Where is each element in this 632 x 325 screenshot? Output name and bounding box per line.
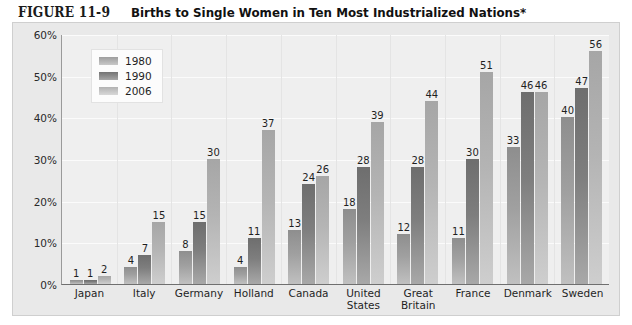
- bar-italy-2006: 15: [152, 222, 165, 285]
- bar-group: 81530: [172, 35, 227, 284]
- bar-japan-2006: 2: [98, 276, 111, 284]
- legend-label-1990: 1990: [125, 70, 152, 82]
- bar-denmark-2006: 46: [535, 92, 548, 284]
- bar-value-label: 28: [411, 156, 424, 166]
- figure-container: FIGURE 11-9 Births to Single Women in Te…: [0, 0, 632, 325]
- page-title: Births to Single Women in Ten Most Indus…: [131, 5, 526, 20]
- bar-value-label: 46: [535, 81, 548, 91]
- bar-holland-1990: 11: [248, 238, 261, 284]
- bar-value-label: 15: [193, 211, 206, 221]
- bar-germany-1980: 8: [179, 251, 192, 284]
- legend-item-1990: 1990: [99, 70, 152, 82]
- x-axis-labels: JapanItalyGermanyHollandCanadaUnitedStat…: [62, 287, 610, 311]
- bar-italy-1980: 4: [124, 267, 137, 284]
- bar-value-label: 2: [101, 265, 107, 275]
- x-axis-label-italy: Italy: [117, 287, 172, 311]
- bar-japan-1990: 1: [84, 280, 97, 284]
- y-axis-tick-label: 10%: [34, 237, 57, 249]
- x-axis-label-great-britain: GreatBritain: [391, 287, 446, 311]
- bar-value-label: 51: [480, 61, 493, 71]
- bar-value-label: 1: [87, 269, 93, 279]
- bar-japan-1980: 1: [70, 280, 83, 284]
- bar-value-label: 40: [561, 106, 574, 116]
- bar-holland-2006: 37: [262, 130, 275, 284]
- x-axis-label-united-states: UnitedStates: [336, 287, 391, 311]
- bar-united-states-1980: 18: [343, 209, 356, 284]
- bar-great-britain-1980: 12: [397, 234, 410, 284]
- legend-label-2006: 2006: [125, 85, 152, 97]
- bar-group: 41137: [227, 35, 282, 284]
- bar-value-label: 11: [452, 227, 465, 237]
- bar-france-1990: 30: [466, 159, 479, 284]
- figure-number: FIGURE 11-9: [18, 2, 110, 21]
- bar-germany-2006: 30: [207, 159, 220, 284]
- bar-value-label: 11: [248, 227, 261, 237]
- bar-denmark-1980: 33: [507, 147, 520, 285]
- bar-value-label: 7: [142, 244, 148, 254]
- bar-value-label: 33: [507, 136, 520, 146]
- bar-value-label: 26: [316, 165, 329, 175]
- x-axis-label-sweden: Sweden: [555, 287, 610, 311]
- bar-value-label: 47: [575, 77, 588, 87]
- bar-denmark-1990: 46: [521, 92, 534, 284]
- bar-group: 182839: [336, 35, 391, 284]
- x-axis-label-canada: Canada: [281, 287, 336, 311]
- bar-value-label: 28: [357, 156, 370, 166]
- bar-value-label: 30: [466, 148, 479, 158]
- x-axis-label-holland: Holland: [226, 287, 281, 311]
- y-axis-tick-label: 20%: [34, 196, 57, 208]
- bar-great-britain-1990: 28: [411, 167, 424, 284]
- legend-swatch-1980-icon: [99, 57, 118, 65]
- bar-canada-1990: 24: [302, 184, 315, 284]
- bar-united-states-1990: 28: [357, 167, 370, 284]
- y-axis-tick-label: 0%: [40, 279, 57, 291]
- bar-value-label: 12: [397, 223, 410, 233]
- bar-sweden-1990: 47: [575, 88, 588, 284]
- bar-value-label: 4: [237, 256, 243, 266]
- bar-value-label: 18: [343, 198, 356, 208]
- bar-value-label: 1: [73, 269, 79, 279]
- figure-title-row: FIGURE 11-9 Births to Single Women in Te…: [18, 2, 551, 22]
- chart-legend: 1980 1990 2006: [91, 49, 163, 103]
- bar-group: 113051: [445, 35, 500, 284]
- legend-swatch-2006-icon: [99, 87, 118, 95]
- x-axis-label-denmark: Denmark: [500, 287, 555, 311]
- bar-group: 334646: [500, 35, 555, 284]
- bar-group: 404756: [554, 35, 609, 284]
- bar-group: 132426: [281, 35, 336, 284]
- bar-canada-1980: 13: [288, 230, 301, 284]
- bar-great-britain-2006: 44: [425, 101, 438, 284]
- bar-france-1980: 11: [452, 238, 465, 284]
- bar-value-label: 30: [207, 148, 220, 158]
- x-axis-label-japan: Japan: [62, 287, 117, 311]
- y-axis-tick-label: 40%: [34, 112, 57, 124]
- legend-item-2006: 2006: [99, 85, 152, 97]
- bar-value-label: 56: [589, 40, 602, 50]
- legend-label-1980: 1980: [125, 55, 152, 67]
- bar-group: 122844: [391, 35, 446, 284]
- bar-value-label: 24: [302, 173, 315, 183]
- bar-sweden-1980: 40: [561, 117, 574, 284]
- bar-value-label: 4: [128, 256, 134, 266]
- bar-value-label: 39: [371, 111, 384, 121]
- bar-holland-1980: 4: [234, 267, 247, 284]
- bar-value-label: 37: [262, 119, 275, 129]
- bar-germany-1990: 15: [193, 222, 206, 285]
- x-axis-label-france: France: [446, 287, 501, 311]
- chart-panel: 0%10%20%30%40%50%60% 1124715815304113713…: [12, 22, 620, 316]
- bar-united-states-2006: 39: [371, 122, 384, 285]
- y-axis-tick-label: 30%: [34, 154, 57, 166]
- legend-swatch-1990-icon: [99, 72, 118, 80]
- y-axis-tick-label: 60%: [34, 29, 57, 41]
- x-axis-label-germany: Germany: [172, 287, 227, 311]
- bar-sweden-2006: 56: [589, 51, 602, 284]
- bar-france-2006: 51: [480, 72, 493, 285]
- bar-value-label: 15: [153, 211, 166, 221]
- legend-item-1980: 1980: [99, 55, 152, 67]
- bar-italy-1990: 7: [138, 255, 151, 284]
- bar-value-label: 8: [182, 240, 188, 250]
- bar-value-label: 13: [288, 219, 301, 229]
- bar-value-label: 46: [521, 81, 534, 91]
- bar-value-label: 44: [425, 90, 438, 100]
- bar-canada-2006: 26: [316, 176, 329, 284]
